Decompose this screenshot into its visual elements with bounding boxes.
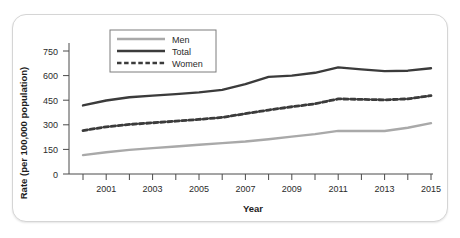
x-tick-label-2013: 2013 [375,184,395,194]
legend-label-total: Total [172,47,191,57]
x-tick-label-2003: 2003 [143,184,163,194]
series-line-women [83,96,431,131]
x-tick-label-2007: 2007 [235,184,255,194]
y-axis-title: Rate (per 100,000 population) [18,67,29,200]
y-tick-label-0: 0 [53,170,58,180]
figure-root: Rate (per 100,000 population) 750 600 45… [0,0,460,238]
line-chart: Rate (per 100,000 population) 750 600 45… [13,15,449,223]
x-axis-title: Year [243,203,263,214]
y-tick-label-450: 450 [43,96,58,106]
y-tick-label-300: 300 [43,120,58,130]
legend-label-men: Men [172,35,190,45]
x-axis-tick-labels: 20012003200520072009201120132015 [96,184,441,194]
y-tick-label-750: 750 [43,47,58,57]
x-tick-label-2009: 2009 [282,184,302,194]
chart-legend: Men Total Women [110,30,216,72]
y-axis-tick-labels: 750 600 450 300 150 0 [43,47,58,180]
x-tick-label-2011: 2011 [329,184,348,194]
y-axis-ticks [63,51,69,174]
series-group [83,67,431,155]
x-tick-label-2015: 2015 [421,184,441,194]
x-axis-ticks [83,174,431,180]
x-tick-label-2001: 2001 [96,184,116,194]
y-tick-label-150: 150 [43,145,58,155]
x-tick-label-2005: 2005 [189,184,209,194]
chart-card: Rate (per 100,000 population) 750 600 45… [12,14,448,222]
series-line-men [83,123,431,155]
legend-label-women: Women [172,59,203,69]
y-tick-label-600: 600 [43,71,58,81]
